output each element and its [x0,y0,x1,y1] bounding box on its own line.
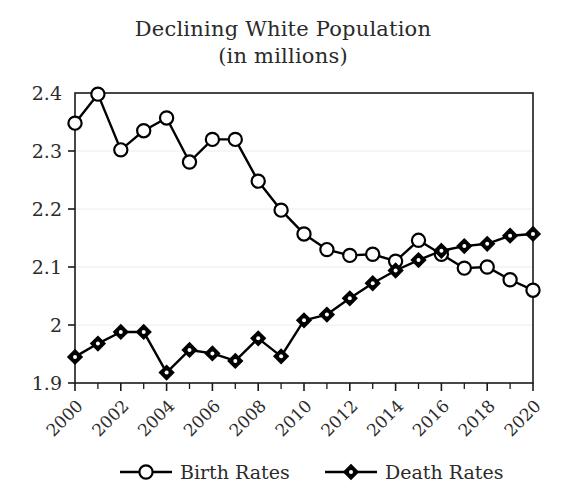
data-point-marker-center [485,242,489,246]
data-point-marker-center [417,258,421,262]
series-line [75,234,533,373]
data-point-marker-center [256,336,260,340]
data-point-marker-center [210,351,214,355]
x-tick-label: 2006 [179,396,224,441]
data-point-marker [343,249,356,262]
data-point-marker-center [96,342,100,346]
chart-plot-area: 1.922.12.22.32.4 20002002200420062008201… [0,0,566,500]
x-tick-label: 2012 [317,396,362,441]
y-axis-ticks [68,151,75,383]
data-point-marker [91,88,104,101]
data-point-marker-center [165,371,169,375]
data-point-marker-center [439,249,443,253]
data-point-marker-center [73,355,77,359]
y-tick-label: 2.3 [32,140,62,162]
data-point-marker [160,111,173,124]
data-point-marker [114,143,127,156]
x-axis-ticks [75,383,533,391]
series-2 [68,227,539,379]
y-tick-label: 2 [50,314,62,336]
data-point-marker-center [119,330,123,334]
legend-label: Death Rates [385,461,503,483]
data-point-marker-center [142,330,146,334]
data-point-marker [366,248,379,261]
data-point-marker-center [531,232,535,236]
x-tick-label: 2010 [271,396,316,441]
data-point-marker [481,260,494,273]
y-axis-tick-labels: 1.922.12.22.32.4 [32,82,62,394]
data-point-marker [504,273,517,286]
data-point-marker [139,465,152,478]
y-tick-label: 1.9 [32,372,62,394]
data-point-marker [229,133,242,146]
data-point-marker-center [371,281,375,285]
data-point-marker [320,243,333,256]
data-point-marker-center [188,348,192,352]
x-tick-label: 2008 [225,396,270,441]
data-point-marker [137,124,150,137]
data-point-marker [458,262,471,275]
data-point-marker [68,117,81,130]
chart-legend: Birth RatesDeath Rates [120,461,503,483]
x-tick-label: 2016 [408,396,453,441]
x-tick-label: 2000 [42,396,87,441]
data-point-marker-center [233,359,237,363]
x-tick-label: 2018 [454,396,499,441]
data-point-marker-center [394,268,398,272]
data-point-marker-center [462,244,466,248]
x-axis-tick-labels: 2000200220042006200820102012201420162018… [42,396,545,441]
y-tick-label: 2.1 [32,256,62,278]
data-point-marker [297,227,310,240]
data-series-layer [68,88,539,380]
legend-item-1[interactable]: Birth Rates [120,461,290,483]
data-point-marker [526,284,539,297]
data-point-marker [275,204,288,217]
x-tick-label: 2002 [88,396,133,441]
data-point-marker-center [325,313,329,317]
y-tick-label: 2.4 [32,82,62,104]
series-1 [68,88,539,297]
x-tick-label: 2020 [500,396,545,441]
data-point-marker-center [508,234,512,238]
data-point-marker [183,155,196,168]
data-point-marker [412,234,425,247]
legend-item-2[interactable]: Death Rates [325,461,503,483]
x-tick-label: 2014 [363,396,408,441]
data-point-marker-center [302,318,306,322]
data-point-marker [252,175,265,188]
data-point-marker-center [279,354,283,358]
x-tick-label: 2004 [134,396,179,441]
legend-label: Birth Rates [180,461,290,483]
data-point-marker-center [348,296,352,300]
data-point-marker-center [349,470,353,474]
data-point-marker [206,133,219,146]
y-tick-label: 2.2 [32,198,62,220]
chart-container: Declining White Population (in millions)… [0,0,566,500]
